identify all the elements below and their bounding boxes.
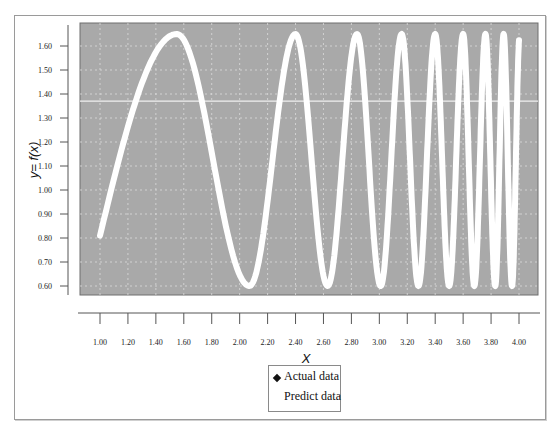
y-tick-label: 0.70 [38, 258, 52, 267]
x-tick-label: 2.40 [289, 338, 303, 347]
y-tick-label: 1.00 [38, 186, 52, 195]
x-tick-label: 2.80 [344, 338, 358, 347]
legend-label-predict: Predict data [284, 389, 341, 404]
x-tick-label: 2.60 [316, 338, 330, 347]
y-tick-label: 0.80 [38, 234, 52, 243]
x-tick-label: 3.20 [400, 338, 414, 347]
x-tick-label: 3.60 [456, 338, 470, 347]
y-tick-label: 1.30 [38, 114, 52, 123]
y-tick-label: 1.40 [38, 90, 52, 99]
x-tick-label: 2.20 [261, 338, 275, 347]
x-tick-label: 1.00 [93, 338, 107, 347]
x-tick-label: 3.40 [428, 338, 442, 347]
x-axis-ticks: 1.001.201.401.601.802.002.202.402.602.80… [93, 313, 526, 347]
x-tick-label: 3.80 [484, 338, 498, 347]
y-tick-label: 0.60 [38, 282, 52, 291]
x-tick-label: 3.00 [372, 338, 386, 347]
y-axis-ticks: 1.601.501.401.301.201.101.000.900.800.70… [38, 42, 68, 291]
y-tick-label: 1.50 [38, 66, 52, 75]
x-tick-label: 1.20 [121, 338, 135, 347]
y-tick-label: 0.90 [38, 210, 52, 219]
x-tick-label: 1.60 [177, 338, 191, 347]
y-axis-title: y= f(x) [26, 142, 41, 179]
legend: Actual data Predict data [268, 365, 341, 412]
x-axis-title: X [301, 351, 312, 366]
x-tick-label: 1.80 [205, 338, 219, 347]
diamond-marker-icon [273, 374, 281, 382]
x-tick-label: 1.40 [149, 338, 163, 347]
x-tick-label: 4.00 [512, 338, 526, 347]
x-tick-label: 2.00 [233, 338, 247, 347]
legend-label-actual: Actual data [284, 369, 339, 384]
y-tick-label: 1.60 [38, 42, 52, 51]
